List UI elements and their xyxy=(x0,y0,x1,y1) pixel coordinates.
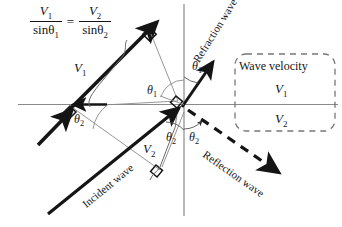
wave-refraction-diagram: V1 sinθ1 = V2 sinθ2 V1 θ1 θ1 θ2 θ2 θ2 V2… xyxy=(0,0,342,227)
snell-equals-sign: = xyxy=(65,15,76,28)
snell-left-denominator: sinθ1 xyxy=(30,22,62,39)
v2-velocity-label: V2 xyxy=(143,142,155,158)
velocity-box-v1: V1 xyxy=(275,82,287,98)
theta2-arc-reflection xyxy=(184,121,202,129)
v1-brace xyxy=(89,40,127,107)
reflection-wave-arrow xyxy=(188,110,278,172)
theta1-left-label: θ1 xyxy=(147,84,157,100)
theta2-left-label: θ2 xyxy=(74,113,84,129)
theta2-arc-left xyxy=(93,105,108,130)
theta1-arc-refraction xyxy=(184,77,198,83)
snell-left-numerator: V1 xyxy=(35,4,57,21)
velocity-box-title: Wave velocity xyxy=(239,60,308,72)
velocity-box-v2: V2 xyxy=(275,112,287,128)
snell-right-numerator: V2 xyxy=(84,4,106,21)
incident-wave-arrow xyxy=(48,108,179,214)
construction-line-lower xyxy=(73,108,160,170)
v1-velocity-label: V1 xyxy=(74,61,86,77)
theta2-center-label: θ2 xyxy=(166,131,176,147)
snell-equation: V1 sinθ1 = V2 sinθ2 xyxy=(30,4,111,40)
theta2-right-label: θ2 xyxy=(189,131,199,147)
snell-right-denominator: sinθ2 xyxy=(79,22,111,39)
snell-right-fraction: V2 sinθ2 xyxy=(79,4,111,40)
snell-left-fraction: V1 sinθ1 xyxy=(30,4,62,40)
